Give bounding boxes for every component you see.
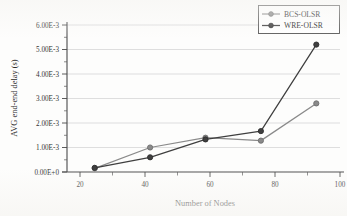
- legend-marker-1: [269, 23, 274, 28]
- data-point: [314, 101, 319, 106]
- x-tick-label-1: 40: [141, 181, 149, 189]
- x-tick-label-4: 100: [335, 181, 346, 189]
- x-tick-labels: 20 40 60 80 100: [76, 181, 345, 189]
- y-tick-label-1: 1.00E-3: [36, 144, 59, 152]
- data-point: [148, 145, 153, 150]
- line-chart: 0.00E+0 1.00E-3 2.00E-3 3.00E-3 4.00E-3 …: [0, 0, 347, 216]
- data-point: [258, 128, 263, 133]
- legend-label-1: WRE-OLSR: [284, 21, 324, 30]
- gridlines: [67, 25, 340, 148]
- data-point: [148, 155, 153, 160]
- legend-marker-0: [269, 12, 274, 17]
- x-tick-label-3: 80: [271, 181, 279, 189]
- x-tick-label-2: 60: [206, 181, 214, 189]
- y-axis-ticks: [62, 25, 67, 172]
- figure-container: 0.00E+0 1.00E-3 2.00E-3 3.00E-3 4.00E-3 …: [0, 0, 347, 216]
- chart-legend[interactable]: BCS-OLSR WRE-OLSR: [259, 6, 340, 34]
- series-line-1: [95, 45, 317, 168]
- y-tick-labels: 0.00E+0 1.00E-3 2.00E-3 3.00E-3 4.00E-3 …: [34, 22, 59, 177]
- data-point: [92, 165, 97, 170]
- data-point: [258, 138, 263, 143]
- x-tick-label-0: 20: [76, 181, 84, 189]
- y-tick-label-4: 4.00E-3: [36, 71, 59, 79]
- data-point: [314, 42, 319, 47]
- series-bcs-olsr: [92, 101, 319, 171]
- y-tick-label-0: 0.00E+0: [34, 169, 59, 177]
- y-tick-label-6: 6.00E-3: [36, 22, 59, 30]
- series-layer: [92, 42, 319, 171]
- legend-label-0: BCS-OLSR: [284, 10, 321, 19]
- series-wre-olsr: [92, 42, 319, 170]
- data-point: [203, 137, 208, 142]
- y-tick-label-3: 3.00E-3: [36, 95, 59, 103]
- y-tick-label-2: 2.00E-3: [36, 120, 59, 128]
- y-tick-label-5: 5.00E-3: [36, 46, 59, 54]
- x-axis-ticks: [80, 172, 340, 177]
- x-axis-title: Number of Nodes: [175, 199, 235, 208]
- y-axis-title: AVG end-end delay (s): [10, 59, 19, 137]
